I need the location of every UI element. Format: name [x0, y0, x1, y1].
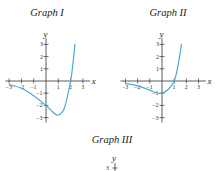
x-tick-label: −3: [122, 84, 128, 90]
figure-canvas: −3−2−1123−3−2−1123xy −3−2−1123−3−2−1123x…: [0, 0, 217, 171]
graph-3-y-tick-label: 3: [106, 165, 109, 171]
y-tick-label: 1: [40, 66, 43, 72]
graph-1-y-label: y: [43, 29, 48, 39]
x-tick-label: 1: [57, 84, 60, 90]
graph-1: −3−2−1123−3−2−1123xy: [5, 29, 95, 123]
y-tick-label: −2: [36, 102, 42, 108]
y-tick-label: −2: [152, 102, 158, 108]
x-tick-label: 1: [173, 84, 176, 90]
y-tick-label: −3: [152, 115, 158, 121]
y-tick-label: 3: [40, 41, 43, 47]
y-tick-label: 1: [156, 66, 159, 72]
x-tick-label: −1: [30, 84, 36, 90]
y-tick-label: −3: [36, 115, 42, 121]
x-tick-label: 3: [197, 84, 200, 90]
x-tick-label: 3: [81, 84, 84, 90]
x-tick-label: 2: [185, 84, 188, 90]
graph-1-x-label: x: [91, 76, 96, 86]
graph-2: −3−2−1123−3−2−1123xy: [121, 29, 212, 123]
y-tick-label: 2: [156, 54, 159, 60]
graph-2-x-label: x: [206, 76, 211, 86]
graph-3-y-label: y: [111, 153, 116, 163]
y-tick-label: 3: [156, 41, 159, 47]
y-tick-label: 2: [40, 54, 43, 60]
graph-2-y-label: y: [159, 29, 164, 39]
graph-3: y 3: [106, 153, 118, 171]
y-tick-label: −1: [36, 90, 42, 96]
